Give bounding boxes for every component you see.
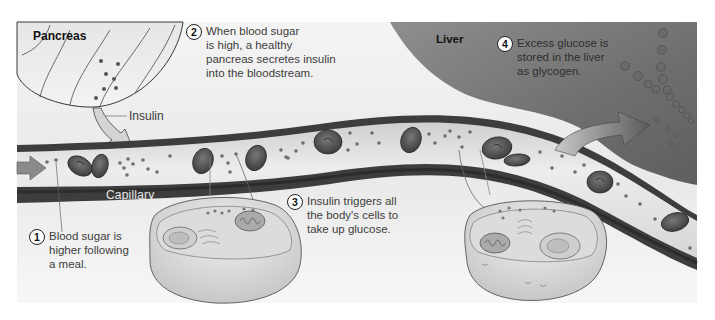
step-4-text: Excess glucose is stored in the liver as…: [517, 36, 608, 78]
step-4-number-badge: 4: [497, 36, 513, 52]
step-3-text: Insulin triggers all the body's cells to…: [307, 194, 398, 236]
step-2-number-badge: 2: [186, 24, 202, 40]
step-3-number-badge: 3: [287, 194, 303, 210]
liver-label: Liver: [436, 32, 464, 46]
step-3-callout: 3 Insulin triggers all the body's cells …: [287, 194, 447, 240]
step-1-text: Blood sugar is higher following a meal.: [49, 229, 129, 271]
step-2-text: When blood sugar is high, a healthy panc…: [206, 24, 336, 80]
step-1-callout: 1 Blood sugar is higher following a meal…: [29, 229, 159, 275]
insulin-glucose-diagram: Pancreas Liver Insulin Capillary 2 When …: [0, 0, 715, 320]
step-1-number-badge: 1: [29, 229, 45, 245]
insulin-label: Insulin: [129, 109, 164, 123]
pancreas-label: Pancreas: [33, 29, 86, 43]
step-4-callout: 4 Excess glucose is stored in the liver …: [497, 36, 637, 82]
body-cell-2: [465, 201, 607, 301]
capillary-label: Capillary: [106, 188, 154, 202]
step-2-callout: 2 When blood sugar is high, a healthy pa…: [186, 24, 376, 84]
body-cell-1: [150, 197, 302, 303]
